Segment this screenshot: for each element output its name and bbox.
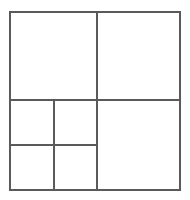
cell-face-group [10,12,180,190]
cell-mid-left [10,100,54,145]
cell-mid-center [54,100,97,145]
diagram-canvas [0,0,190,200]
cell-top-right [97,12,180,100]
cell-bottom-right-large [97,100,180,190]
cell-bottom-left [10,145,54,190]
cell-bottom-center [54,145,97,190]
cell-top-left [10,12,97,100]
square-subdivision-figure [0,0,190,200]
